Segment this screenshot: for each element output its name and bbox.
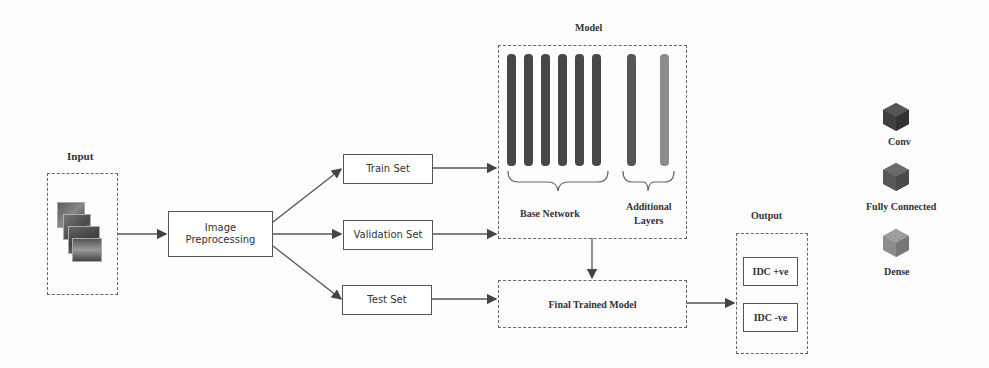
fully-connected-layer [627,54,636,166]
test-set-box: Test Set [342,285,432,315]
conv-cube-icon [882,102,910,132]
legend-fully-connected-label: Fully Connected [866,201,936,212]
legend-dense-label: Dense [884,266,910,277]
legend-conv-label: Conv [888,136,911,147]
preprocessing-label-line1: Image [186,222,256,234]
idc-positive-box: IDC +ve [743,257,798,286]
dense-layer [660,54,669,166]
additional-label-line1: Additional [626,200,672,214]
dense-cube-icon [882,228,910,258]
output-title: Output [751,210,782,221]
conv-layer-2 [524,54,533,166]
image-preprocessing-box: Image Preprocessing [168,211,273,257]
model-title: Model [575,22,602,33]
input-label: Input [67,150,93,162]
conv-layer-5 [575,54,584,166]
base-network-label: Base Network [520,208,580,219]
validation-set-box: Validation Set [343,220,433,250]
additional-label-line2: Layers [626,214,672,228]
conv-layer-1 [507,54,516,166]
idc-negative-box: IDC -ve [743,303,798,332]
preprocessing-label-line2: Preprocessing [186,234,256,246]
conv-layer-6 [592,54,601,166]
train-set-box: Train Set [343,154,433,184]
fully-connected-cube-icon [882,162,910,192]
input-box [47,173,118,295]
conv-layer-4 [558,54,567,166]
output-box [736,233,808,354]
conv-layer-3 [541,54,550,166]
diagram-canvas: Input Image Preprocessing Train Set Vali… [0,0,989,368]
input-image-4 [72,238,102,262]
connector-layer [0,0,989,368]
final-trained-model-box: Final Trained Model [498,280,687,328]
final-model-label: Final Trained Model [549,299,637,310]
additional-layers-label: Additional Layers [626,200,672,228]
